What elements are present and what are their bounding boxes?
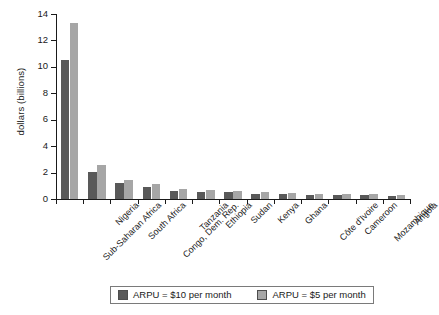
bar-group: [224, 14, 242, 199]
y-tick: 14: [51, 14, 56, 15]
legend-item: ARPU = $5 per month: [257, 289, 365, 300]
bar: [224, 192, 233, 199]
y-tick: 2: [51, 173, 56, 174]
bar-group: [360, 14, 378, 199]
bar: [333, 195, 342, 199]
bar: [152, 184, 161, 199]
y-tick: 4: [51, 146, 56, 147]
bar: [70, 23, 79, 199]
bar: [360, 195, 369, 199]
bar: [315, 194, 324, 199]
bar: [206, 190, 215, 199]
bar-group: [88, 14, 106, 199]
bar: [97, 165, 106, 199]
bar-group: [306, 14, 324, 199]
bar: [342, 194, 351, 199]
y-tick-label: 2: [43, 166, 48, 177]
bar-group: [143, 14, 161, 199]
bar: [197, 192, 206, 199]
bar: [397, 195, 406, 199]
bar: [233, 191, 242, 199]
bar: [251, 194, 260, 199]
chart-legend: ARPU = $10 per monthARPU = $5 per month: [110, 286, 374, 304]
y-axis-line: [56, 14, 57, 200]
bar: [279, 194, 288, 199]
bar: [61, 60, 70, 199]
bar: [124, 180, 133, 199]
x-axis-label: Kenya: [276, 200, 301, 225]
x-axis-label: Ghana: [303, 200, 329, 226]
bar-group: [115, 14, 133, 199]
y-tick-label: 4: [43, 140, 48, 151]
y-tick-label: 10: [37, 60, 48, 71]
x-axis-labels: Sub-Saharan AfricaNigeriaSouth AfricaCon…: [56, 200, 424, 275]
x-axis-label: Sudan: [249, 200, 274, 225]
bar-group: [197, 14, 215, 199]
y-tick-label: 14: [37, 8, 48, 19]
y-tick: 12: [51, 40, 56, 41]
legend-label: ARPU = $10 per month: [133, 289, 231, 300]
bar-group: [61, 14, 79, 199]
y-tick-label: 8: [43, 87, 48, 98]
bar-group: [251, 14, 269, 199]
bar: [115, 183, 124, 199]
bar: [143, 187, 152, 199]
plot-area: 02468101214: [56, 14, 410, 199]
bar: [179, 189, 188, 199]
bar-group: [388, 14, 406, 199]
legend-swatch-icon: [118, 290, 128, 300]
bar-group: [333, 14, 351, 199]
y-tick: 8: [51, 93, 56, 94]
legend-item: ARPU = $10 per month: [118, 289, 231, 300]
bar: [306, 195, 315, 199]
bar-group: [170, 14, 188, 199]
bar-group: [279, 14, 297, 199]
y-tick-label: 12: [37, 34, 48, 45]
bar: [288, 193, 297, 199]
y-tick: 6: [51, 120, 56, 121]
y-tick-label: 0: [43, 193, 48, 204]
legend-label: ARPU = $5 per month: [272, 289, 365, 300]
bar: [261, 192, 270, 199]
bar: [88, 172, 97, 199]
bar: [170, 191, 179, 199]
y-tick-label: 6: [43, 113, 48, 124]
y-tick: 10: [51, 67, 56, 68]
bar: [369, 194, 378, 199]
bar: [388, 196, 397, 199]
y-axis-title: dollars (billions): [15, 52, 26, 152]
legend-swatch-icon: [257, 290, 267, 300]
x-axis-label: Congo, Dem. Rep.: [181, 200, 241, 260]
